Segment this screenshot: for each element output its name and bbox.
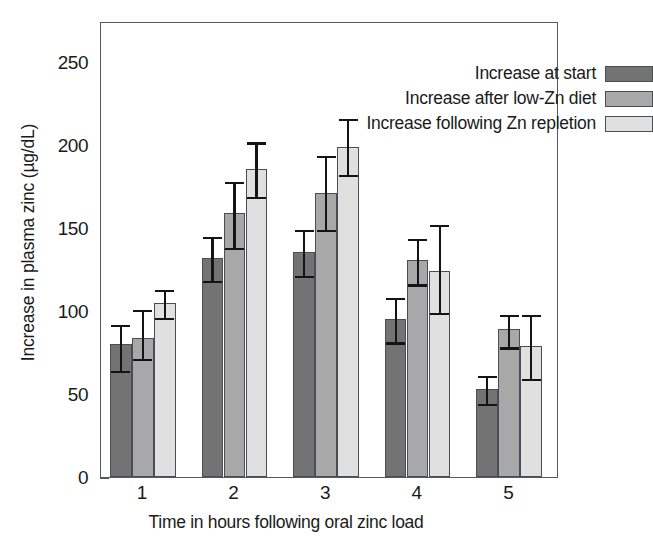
error-bar-cap-bottom: [111, 371, 130, 373]
bar: [224, 213, 246, 477]
legend-label: Increase after low-Zn diet: [405, 88, 596, 109]
error-bar-cap-bottom: [386, 342, 405, 344]
plot-area: Increase at startIncrease after low-Zn d…: [100, 22, 558, 478]
error-bar-stem: [120, 325, 122, 373]
error-bar: [293, 230, 315, 278]
error-bar-stem: [486, 376, 488, 406]
error-bar: [498, 315, 520, 350]
y-tick-label: 200: [32, 136, 88, 155]
error-bar-cap-top: [430, 225, 449, 227]
error-bar-cap-top: [478, 376, 497, 378]
error-bar-stem: [142, 310, 144, 361]
y-axis-title: Increase in plasma zinc (µg/dL): [18, 63, 39, 423]
error-bar-cap-top: [500, 315, 519, 317]
error-bar-stem: [255, 142, 257, 198]
error-bar-cap-bottom: [317, 230, 336, 232]
x-tick-label: 3: [295, 482, 355, 504]
error-bar-cap-bottom: [155, 318, 174, 320]
error-bar-cap-top: [247, 142, 266, 144]
y-tick-label: 0: [32, 468, 88, 487]
x-tick-label: 5: [478, 482, 538, 504]
legend-label: Increase at start: [475, 63, 596, 84]
error-bar: [132, 310, 154, 361]
error-bar-cap-top: [203, 237, 222, 239]
y-tick-label: 100: [32, 302, 88, 321]
error-bar-stem: [395, 298, 397, 344]
error-bar-cap-bottom: [408, 284, 427, 286]
error-bar: [224, 182, 246, 250]
error-bar-stem: [233, 182, 235, 250]
x-tick-label: 2: [203, 482, 263, 504]
error-bar-cap-top: [133, 310, 152, 312]
error-bar-stem: [164, 290, 166, 320]
error-bar-stem: [530, 315, 532, 381]
legend-swatch: [605, 66, 653, 82]
error-bar-cap-top: [225, 182, 244, 184]
error-bar: [407, 239, 429, 287]
error-bar-cap-top: [522, 315, 541, 317]
error-bar-stem: [325, 156, 327, 232]
error-bar-cap-bottom: [203, 281, 222, 283]
legend-item: Increase at start: [307, 61, 653, 86]
x-tick-label: 1: [112, 482, 172, 504]
legend-item: Increase following Zn repletion: [307, 111, 653, 136]
bar: [246, 169, 268, 477]
x-axis-title: Time in hours following oral zinc load: [0, 512, 572, 533]
y-tick-label: 50: [32, 385, 88, 404]
error-bar: [476, 376, 498, 406]
error-bar: [110, 325, 132, 373]
error-bar-cap-bottom: [500, 347, 519, 349]
error-bar: [520, 315, 542, 381]
error-bar-cap-top: [295, 230, 314, 232]
bar: [154, 303, 176, 477]
error-bar: [385, 298, 407, 344]
error-bar: [154, 290, 176, 320]
error-bar-cap-bottom: [133, 359, 152, 361]
error-bar-stem: [303, 230, 305, 278]
y-tick-label: 250: [32, 53, 88, 72]
error-bar-cap-bottom: [522, 379, 541, 381]
bar: [337, 147, 359, 477]
error-bar-cap-bottom: [225, 248, 244, 250]
x-tick-label: 4: [387, 482, 447, 504]
bar: [315, 193, 337, 477]
error-bar: [315, 156, 337, 232]
error-bar-cap-bottom: [295, 276, 314, 278]
chart-legend: Increase at startIncrease after low-Zn d…: [307, 61, 653, 136]
error-bar-stem: [211, 237, 213, 283]
legend-swatch: [605, 116, 653, 132]
error-bar-cap-top: [386, 298, 405, 300]
error-bar-cap-top: [408, 239, 427, 241]
bar: [407, 260, 429, 477]
error-bar-cap-top: [111, 325, 130, 327]
error-bar-cap-bottom: [478, 404, 497, 406]
error-bar-stem: [417, 239, 419, 287]
bar: [202, 258, 224, 477]
error-bar-cap-bottom: [430, 313, 449, 315]
bar: [498, 329, 520, 477]
y-tick-label: 150: [32, 219, 88, 238]
legend-label: Increase following Zn repletion: [366, 113, 596, 134]
error-bar-cap-bottom: [339, 175, 358, 177]
legend-swatch: [605, 91, 653, 107]
error-bar: [429, 225, 451, 315]
bar: [293, 252, 315, 478]
error-bar-cap-top: [155, 290, 174, 292]
error-bar-cap-top: [317, 156, 336, 158]
error-bar-cap-bottom: [247, 197, 266, 199]
error-bar-stem: [508, 315, 510, 350]
legend-item: Increase after low-Zn diet: [307, 86, 653, 111]
error-bar: [202, 237, 224, 283]
error-bar: [246, 142, 268, 198]
error-bar-stem: [439, 225, 441, 315]
